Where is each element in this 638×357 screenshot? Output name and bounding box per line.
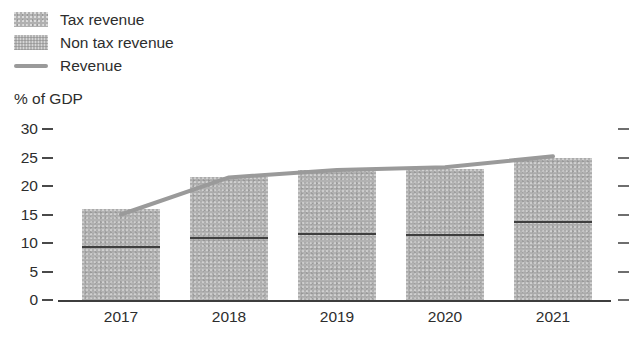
legend-swatch-tax-revenue-icon	[14, 12, 48, 27]
y-axis-tick-label: 25	[4, 149, 38, 167]
legend-item-tax-revenue: Tax revenue	[14, 8, 314, 31]
bar-segment-divider-2020	[406, 234, 484, 236]
legend-item-revenue: Revenue	[14, 54, 314, 77]
legend-swatch-non-tax-revenue-icon	[14, 35, 48, 50]
legend-label-revenue: Revenue	[60, 58, 122, 74]
legend-item-non-tax-revenue: Non tax revenue	[14, 31, 314, 54]
y-axis-right-tick	[618, 128, 629, 130]
legend-label-tax-revenue: Tax revenue	[60, 12, 144, 28]
y-axis-right-tick	[618, 157, 629, 159]
x-axis-label-2019: 2019	[320, 308, 354, 326]
y-axis-tick-label: 10	[4, 234, 38, 252]
bar-2021	[514, 158, 592, 301]
y-axis-right-tick	[618, 185, 629, 187]
y-axis-tick	[42, 128, 53, 130]
bar-segment-divider-2018	[190, 237, 268, 239]
x-axis-baseline	[58, 300, 611, 302]
y-axis-right-tick	[618, 299, 629, 301]
y-axis-tick	[42, 157, 53, 159]
legend-swatch-revenue-line-icon	[14, 58, 48, 73]
x-axis-label-2020: 2020	[428, 308, 462, 326]
y-axis-tick	[42, 299, 53, 301]
y-axis-tick-label: 0	[4, 291, 38, 309]
revenue-chart-figure: Tax revenue Non tax revenue Revenue % of…	[0, 0, 638, 357]
y-axis-tick	[42, 185, 53, 187]
y-axis-tick-label: 20	[4, 177, 38, 195]
bar-2019	[298, 170, 376, 300]
y-axis-tick	[42, 214, 53, 216]
y-axis-right-tick	[618, 214, 629, 216]
legend-label-non-tax-revenue: Non tax revenue	[60, 35, 174, 51]
chart-legend: Tax revenue Non tax revenue Revenue	[14, 8, 314, 77]
x-axis-label-2017: 2017	[104, 308, 138, 326]
plot-area: 051015202530 20172018201920202021	[0, 112, 638, 357]
y-axis-tick-label: 30	[4, 120, 38, 138]
x-axis-label-2018: 2018	[212, 308, 246, 326]
y-axis-tick	[42, 242, 53, 244]
bar-2017	[82, 209, 160, 300]
y-axis-tick	[42, 271, 53, 273]
y-axis-unit-label: % of GDP	[14, 90, 83, 108]
y-axis-right-tick	[618, 271, 629, 273]
bar-segment-divider-2021	[514, 221, 592, 223]
y-axis-tick-label: 5	[4, 263, 38, 281]
y-axis-right-tick	[618, 242, 629, 244]
y-axis-tick-label: 15	[4, 206, 38, 224]
bar-segment-divider-2017	[82, 246, 160, 248]
x-axis-label-2021: 2021	[536, 308, 570, 326]
bar-segment-divider-2019	[298, 233, 376, 235]
